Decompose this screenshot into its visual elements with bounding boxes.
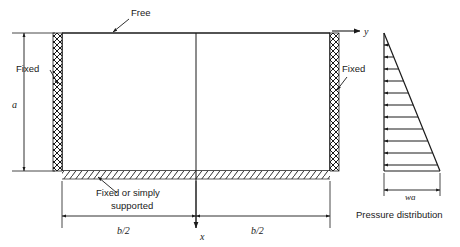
dimension-b-right bbox=[196, 181, 330, 228]
fixed-left-label: Fixed bbox=[16, 63, 39, 74]
dimension-b-right-label: b/2 bbox=[251, 225, 264, 236]
pressure-distribution-triangle bbox=[384, 33, 440, 171]
fixed-right-hatch bbox=[330, 33, 339, 171]
pressure-arrows bbox=[384, 45, 437, 165]
dimension-b-left-label: b/2 bbox=[117, 225, 130, 236]
axis-y-label: y bbox=[363, 26, 369, 37]
free-edge-label: Free bbox=[131, 7, 151, 18]
plate-pressure-diagram: Free Fixed Fixed Fixed or simply support… bbox=[0, 0, 460, 247]
fixed-left-hatch bbox=[53, 33, 62, 171]
pressure-magnitude-label: wa bbox=[405, 192, 416, 202]
free-edge-leader bbox=[113, 19, 129, 32]
bottom-support-label-line2: supported bbox=[111, 200, 153, 211]
fixed-right-label: Fixed bbox=[342, 63, 365, 74]
diagram-canvas: Free Fixed Fixed Fixed or simply support… bbox=[0, 0, 460, 247]
pressure-distribution-caption: Pressure distribution bbox=[356, 209, 443, 220]
dimension-a bbox=[12, 33, 55, 171]
axis-x-label: x bbox=[199, 231, 205, 242]
bottom-support-label-line1: Fixed or simply bbox=[96, 187, 160, 198]
dimension-a-label: a bbox=[12, 99, 17, 110]
pressure-hypotenuse bbox=[384, 33, 440, 171]
